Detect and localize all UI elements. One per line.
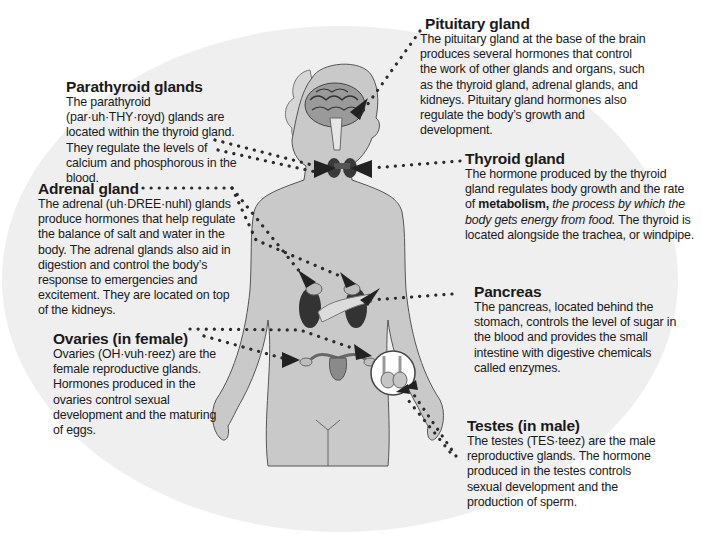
pituitary-title: Pituitary gland <box>419 15 689 32</box>
testes-title: Testes (in male) <box>467 417 667 434</box>
ovaries-description: Ovaries (OH·vuh·reez) are the female rep… <box>53 347 221 438</box>
parathyroid-description: The parathyroid (par·uh·THY·royd) glands… <box>66 95 246 186</box>
thyroid-title: Thyroid gland <box>465 150 697 167</box>
pancreas-title: Pancreas <box>474 283 694 300</box>
pituitary-description: The pituitary gland at the base of the b… <box>419 32 650 138</box>
label-pituitary-gland: Pituitary gland The pituitary gland at t… <box>419 15 689 138</box>
adrenal-description: The adrenal (uh·DREE·nuhl) glands produc… <box>38 197 236 319</box>
parathyroid-title: Parathyroid glands <box>66 78 256 95</box>
ovaries-title: Ovaries (in female) <box>53 330 223 347</box>
pancreas-description: The pancreas, located behind the stomach… <box>474 300 682 376</box>
label-pancreas: Pancreas The pancreas, located behind th… <box>474 283 694 376</box>
adrenal-title: Adrenal gland <box>38 180 238 197</box>
metabolism-term: metabolism, <box>478 197 549 211</box>
testes-description: The testes (TES·teez) are the male repro… <box>467 434 663 510</box>
label-parathyroid-glands: Parathyroid glands The parathyroid (par·… <box>66 78 256 186</box>
label-thyroid-gland: Thyroid gland The hormone produced by th… <box>465 150 697 243</box>
label-adrenal-gland: Adrenal gland The adrenal (uh·DREE·nuhl)… <box>38 180 238 319</box>
label-ovaries: Ovaries (in female) Ovaries (OH·vuh·reez… <box>53 330 223 438</box>
label-testes: Testes (in male) The testes (TES·teez) a… <box>467 417 667 510</box>
thyroid-description: The hormone produced by the thyroid glan… <box>465 167 697 243</box>
